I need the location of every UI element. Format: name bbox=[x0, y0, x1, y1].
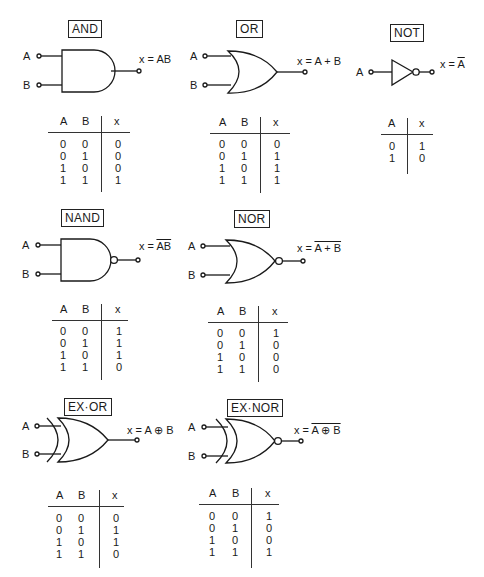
table-cell: 1 bbox=[56, 537, 62, 549]
exor-input-a: A bbox=[22, 420, 29, 432]
table-cell: 1 bbox=[209, 535, 215, 547]
table-cell: 1 bbox=[82, 362, 88, 374]
table-cell: 0 bbox=[239, 328, 245, 340]
table-header-cell: A bbox=[217, 306, 224, 318]
table-cell: 1 bbox=[219, 163, 225, 175]
table-cell: 1 bbox=[78, 525, 84, 537]
table-cell: 0 bbox=[209, 523, 215, 535]
table-cell: 1 bbox=[219, 175, 225, 187]
table-cell: 1 bbox=[60, 362, 66, 374]
table-cell: 0 bbox=[113, 549, 119, 561]
table-cell: 1 bbox=[266, 547, 272, 559]
nand-input-a: A bbox=[22, 239, 29, 251]
table-cell: 1 bbox=[273, 328, 279, 340]
table-cell: 1 bbox=[209, 547, 215, 559]
table-divider bbox=[48, 506, 124, 507]
exnor-gate-icon bbox=[202, 419, 303, 463]
table-cell: 1 bbox=[274, 163, 280, 175]
table-cell: 1 bbox=[116, 350, 122, 362]
table-cell: 1 bbox=[60, 163, 66, 175]
nand-title: NAND bbox=[61, 209, 104, 227]
table-cell: 0 bbox=[232, 511, 238, 523]
table-cell: 0 bbox=[219, 139, 225, 151]
table-header-cell: B bbox=[239, 306, 246, 318]
and-input-b: B bbox=[23, 79, 30, 91]
exor-expression: x = A ⊕ B bbox=[127, 424, 174, 436]
table-header-cell: A bbox=[209, 488, 216, 500]
not-input-a: A bbox=[356, 66, 363, 78]
table-cell: 0 bbox=[419, 153, 425, 165]
table-cell: 1 bbox=[217, 364, 223, 376]
table-cell: 0 bbox=[241, 163, 247, 175]
table-divider bbox=[258, 306, 259, 382]
table-header-cell: A bbox=[60, 304, 67, 316]
table-header-cell: x bbox=[273, 117, 279, 129]
table-cell: 1 bbox=[116, 338, 122, 350]
table-cell: 1 bbox=[239, 340, 245, 352]
table-cell: 0 bbox=[82, 139, 88, 151]
table-cell: 0 bbox=[60, 139, 66, 151]
table-cell: 0 bbox=[60, 338, 66, 350]
table-header-cell: A bbox=[219, 117, 226, 129]
table-cell: 0 bbox=[273, 364, 279, 376]
table-divider bbox=[210, 133, 290, 134]
table-cell: 0 bbox=[232, 535, 238, 547]
table-cell: 0 bbox=[78, 513, 84, 525]
not-truth-table: A x 01 10 bbox=[381, 118, 433, 174]
table-cell: 1 bbox=[266, 511, 272, 523]
table-cell: 1 bbox=[232, 523, 238, 535]
not-title: NOT bbox=[390, 24, 424, 42]
table-header-cell: B bbox=[82, 116, 89, 128]
and-expression: x = AB bbox=[139, 53, 171, 65]
exor-title: EX·OR bbox=[64, 398, 112, 416]
table-divider bbox=[48, 132, 130, 133]
table-cell: 1 bbox=[60, 350, 66, 362]
table-cell: 0 bbox=[78, 537, 84, 549]
table-cell: 0 bbox=[217, 340, 223, 352]
nor-title: NOR bbox=[234, 210, 270, 228]
or-title: OR bbox=[236, 20, 263, 38]
table-cell: 1 bbox=[239, 364, 245, 376]
table-header-cell: x bbox=[419, 118, 425, 130]
table-cell: 0 bbox=[209, 511, 215, 523]
table-header-cell: B bbox=[82, 304, 89, 316]
exor-input-b: B bbox=[22, 448, 29, 460]
nand-gate-icon bbox=[36, 239, 140, 281]
table-cell: 0 bbox=[273, 352, 279, 364]
table-cell: 1 bbox=[113, 537, 119, 549]
table-cell: 0 bbox=[241, 139, 247, 151]
table-header-cell: x bbox=[112, 490, 118, 502]
nor-input-b: B bbox=[188, 269, 195, 281]
table-divider bbox=[251, 488, 252, 568]
table-header-cell: x bbox=[115, 304, 121, 316]
table-cell: 1 bbox=[389, 153, 395, 165]
table-cell: 1 bbox=[419, 141, 425, 153]
or-input-b: B bbox=[190, 79, 197, 91]
table-cell: 0 bbox=[266, 535, 272, 547]
table-cell: 1 bbox=[115, 175, 121, 187]
table-cell: 0 bbox=[82, 326, 88, 338]
not-gate-icon bbox=[369, 60, 434, 85]
table-cell: 0 bbox=[56, 525, 62, 537]
table-cell: 0 bbox=[115, 139, 121, 151]
table-divider bbox=[208, 322, 288, 323]
table-cell: 0 bbox=[389, 141, 395, 153]
exor-gate-icon bbox=[35, 418, 139, 462]
table-divider bbox=[260, 117, 261, 193]
table-header-cell: B bbox=[78, 490, 85, 502]
exnor-title: EX·NOR bbox=[227, 399, 283, 417]
table-cell: 1 bbox=[232, 547, 238, 559]
or-truth-table: A B x 000 011 101 111 bbox=[210, 117, 290, 193]
table-cell: 0 bbox=[219, 151, 225, 163]
or-expression: x = A + B bbox=[297, 55, 341, 67]
exnor-expression: x = A ⊕ B bbox=[294, 424, 341, 436]
exnor-truth-table: A B x 001 010 100 111 bbox=[199, 488, 279, 568]
table-cell: 0 bbox=[56, 513, 62, 525]
not-expression: x = A bbox=[440, 58, 465, 70]
table-cell: 1 bbox=[241, 151, 247, 163]
table-header-cell: A bbox=[388, 118, 395, 130]
table-cell: 0 bbox=[217, 328, 223, 340]
nor-input-a: A bbox=[188, 240, 195, 252]
table-header-cell: x bbox=[265, 488, 271, 500]
table-cell: 0 bbox=[60, 326, 66, 338]
